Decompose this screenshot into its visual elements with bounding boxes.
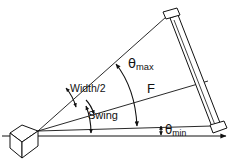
label-theta-min: θmin [165,124,186,138]
label-swing: Swing [88,110,118,121]
theta-max-arc-path [116,64,137,126]
label-focal-f: F [147,82,155,95]
target-bar [163,8,227,133]
label-width-half: Width/2 [70,83,106,94]
figure-canvas: θmax Width/2 Swing F θmin [0,0,233,164]
bar-body [170,15,222,132]
bar-inner-edge [174,20,217,130]
theta-max-arc [116,64,137,126]
sensor-cube [10,125,38,158]
theta-max-subscript: max [136,62,154,72]
theta-max-symbol: θ [128,56,136,71]
label-theta-max: θmax [128,57,154,72]
theta-min-subscript: min [172,128,186,138]
diagram-svg [0,0,233,164]
